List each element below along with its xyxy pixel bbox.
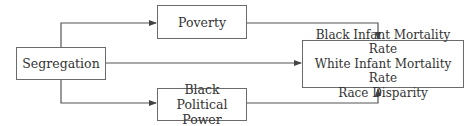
segregation-label: Segregation xyxy=(22,56,99,71)
outcome-black-imr: Black Infant Mortality Rate xyxy=(303,28,463,57)
outcomes-node: Black Infant Mortality Rate White Infant… xyxy=(302,40,464,88)
poverty-label: Poverty xyxy=(178,15,226,30)
black-political-power-node: Black Political Power xyxy=(157,88,247,121)
arrow-segregation-to-poverty xyxy=(61,23,156,47)
outcome-race-disparity: Race Disparity xyxy=(338,86,428,101)
poverty-node: Poverty xyxy=(157,5,247,39)
political-power-label-line1: Black xyxy=(184,82,219,97)
political-power-label-line2: Political Power xyxy=(158,97,246,126)
outcome-white-imr: White Infant Mortality Rate xyxy=(303,57,463,86)
segregation-node: Segregation xyxy=(16,47,106,80)
arrow-segregation-to-political-power xyxy=(61,80,156,103)
